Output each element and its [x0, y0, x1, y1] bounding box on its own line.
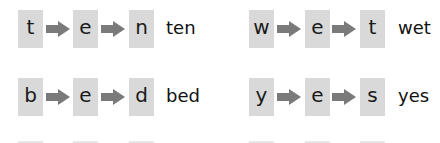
letter-box	[129, 141, 154, 143]
letter-box: e	[305, 78, 330, 116]
letter-box: y	[249, 78, 274, 116]
right-arrow-icon	[332, 89, 356, 105]
word-builder-yes: y e s yes	[0, 78, 440, 116]
result-word: wet	[398, 10, 431, 48]
right-arrow-icon	[332, 21, 356, 37]
right-arrow-icon	[277, 89, 301, 105]
letter-box	[18, 141, 43, 143]
letter-box	[360, 141, 385, 143]
letter-box	[305, 141, 330, 143]
letter-box: s	[360, 78, 385, 116]
letter-box	[249, 141, 274, 143]
letter-box: e	[305, 10, 330, 48]
letter-box	[73, 141, 98, 143]
partial-row-cut-off	[0, 141, 440, 143]
result-word: yes	[398, 78, 429, 116]
word-builder-wet: w e t wet	[0, 10, 440, 48]
right-arrow-icon	[277, 21, 301, 37]
letter-box: w	[249, 10, 274, 48]
letter-box: t	[360, 10, 385, 48]
